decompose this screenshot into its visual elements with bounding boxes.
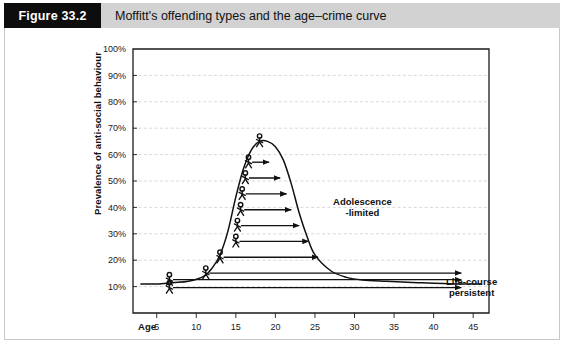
offender-stick-figure [239,187,245,200]
y-tick-label: 40% [108,203,126,213]
y-tick-label: 20% [108,255,126,265]
crime-curve [141,141,481,284]
y-tick-label: 80% [108,97,126,107]
figure-number-tag: Figure 33.2 [4,3,101,28]
chart-annotation-label: persistent [449,287,495,298]
y-tick-label: 60% [108,150,126,160]
figure-caption-bar: Figure 33.2 Moffitt's offending types an… [4,3,560,28]
figure-body-panel: Prevalence of anti-social behaviour 100%… [4,28,560,340]
x-tick-label: 30 [350,322,360,332]
y-tick-label: 90% [108,71,126,81]
x-tick-label: 25 [310,322,320,332]
y-tick-label: 50% [108,176,126,186]
y-tick-label: 100% [103,44,126,54]
offender-stick-figure [234,218,240,231]
age-label-group: Age [138,321,156,332]
y-tick-labels: 100%90%80%70%60%50%40%30%20%10% [103,44,137,292]
x-tick-label: 10 [191,322,201,332]
y-tick-label: 10% [108,282,126,292]
x-tick-marks [157,313,473,318]
figure-container: Figure 33.2 Moffitt's offending types an… [0,0,565,348]
offender-stick-figure [242,171,248,184]
x-tick-label: 45 [468,322,478,332]
y-tick-label: 70% [108,123,126,133]
chart-annotation-label: Adolescence [333,196,392,207]
offender-stick-figure [237,203,243,216]
chart-annotation-label: Life-course [446,276,497,287]
offender-stick-figure [233,234,239,247]
age-crime-curve-path [141,141,481,284]
x-tick-label: 35 [389,322,399,332]
x-tick-label: 40 [429,322,439,332]
gridlines [133,75,489,286]
x-tick-label: 20 [270,322,280,332]
x-tick-labels: 51015202530354045 [154,322,478,332]
x-tick-label: 15 [231,322,241,332]
figure-caption-text: Moffitt's offending types and the age–cr… [101,3,560,28]
offender-stick-figure [217,250,223,263]
age-crime-chart: 100%90%80%70%60%50%40%30%20%10% 51015202… [5,28,561,339]
chart-annotation-label: -limited [346,207,380,218]
x-axis-name: Age [138,321,156,332]
y-tick-label: 30% [108,229,126,239]
